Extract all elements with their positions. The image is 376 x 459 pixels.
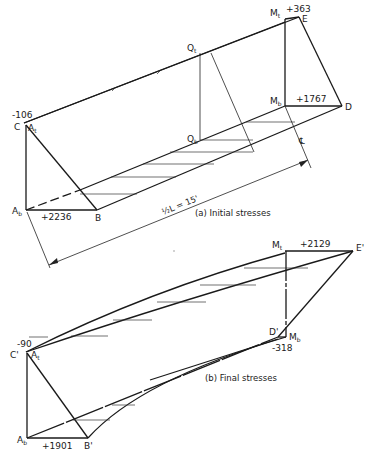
- label-Q-b: Qb: [187, 134, 198, 145]
- label-A-t: At: [31, 350, 40, 361]
- label-E-prime: E': [356, 243, 364, 253]
- Q-section-diagonal: [211, 53, 254, 152]
- label-Q-t: Qt: [187, 43, 197, 54]
- bottom-line-lower: [97, 106, 342, 210]
- midspan-diagonal-E-D: [278, 251, 353, 337]
- value-top-midspan: +2129: [300, 239, 331, 249]
- label-M-b: Mb: [270, 96, 282, 107]
- value-bottom-midspan: +1767: [296, 94, 326, 104]
- centerline: [285, 106, 311, 168]
- label-C-prime: C': [10, 350, 19, 360]
- value-bottom-support: +2236: [41, 212, 72, 222]
- centerline-symbol: ℄: [298, 136, 305, 146]
- label-M-t: Mt: [270, 8, 281, 19]
- value-top-support: -106: [12, 110, 33, 120]
- bottom-curve-from-B: [88, 337, 286, 438]
- label-A-b: Ab: [12, 206, 22, 217]
- label-B: B: [95, 213, 101, 223]
- panel-a-initial-stresses: -106 C At Ab +2236 B Qt Qb Mt +363 E Mb …: [12, 4, 352, 268]
- top-stress-line-lower: [24, 22, 285, 123]
- dimension-label: ½L = 15': [160, 193, 200, 217]
- label-C: C: [14, 122, 20, 132]
- label-A-t: At: [28, 123, 37, 134]
- value-top-support: -90: [17, 339, 32, 349]
- bottom-line-upper: [80, 106, 285, 190]
- label-B-prime: B': [84, 441, 93, 451]
- label-E: E: [302, 14, 308, 24]
- support-diagonal-C-B: [26, 125, 97, 210]
- label-M-t: Mt: [272, 240, 283, 251]
- bottom-line-dashed: [26, 190, 80, 210]
- label-A-b: Ab: [17, 435, 27, 446]
- label-D-prime: D': [269, 327, 278, 337]
- caption-b: (b) Final stresses: [205, 373, 277, 383]
- value-bottom-support: +1901: [42, 441, 72, 451]
- dot-mark: [173, 250, 175, 252]
- top-stress-curve-lower: [26, 251, 353, 352]
- caption-a: (a) Initial stresses: [195, 208, 271, 218]
- value-top-midspan: +363: [286, 4, 311, 14]
- label-D: D: [345, 102, 352, 112]
- value-bottom-midspan: -318: [272, 343, 293, 353]
- panel-b-final-stresses: -90 C' At Ab +1901 B' Mt +2129 E' D' Mb …: [10, 239, 364, 451]
- dimension-arrow-right-icon: [299, 160, 308, 167]
- dimension-arrow-left-icon: [49, 258, 58, 265]
- midspan-diagonal-E-D: [299, 17, 342, 106]
- label-M-b: Mb: [289, 332, 301, 343]
- stress-diagram-figure: -106 C At Ab +2236 B Qt Qb Mt +363 E Mb …: [0, 0, 376, 459]
